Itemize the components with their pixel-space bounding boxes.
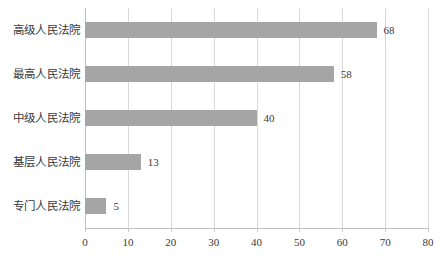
bar[interactable] [85, 154, 141, 170]
category-label: 专门人民法院 [7, 200, 85, 212]
category-axis: 高级人民法院最高人民法院中级人民法院基层人民法院专门人民法院 [0, 0, 85, 228]
x-tick-label: 50 [294, 236, 305, 249]
bar[interactable] [85, 110, 257, 126]
x-tick-mark [257, 228, 258, 232]
x-tick-mark [385, 228, 386, 232]
x-tick-mark [171, 228, 172, 232]
x-tick-label: 0 [82, 236, 88, 249]
bar-value-label: 40 [264, 110, 275, 126]
gridline-60 [342, 8, 343, 228]
x-tick-mark [85, 228, 86, 232]
category-label: 中级人民法院 [7, 112, 85, 124]
gridline-40 [257, 8, 258, 228]
category-label: 高级人民法院 [7, 24, 85, 36]
bar[interactable] [85, 22, 377, 38]
bar-value-label: 13 [148, 154, 159, 170]
bar[interactable] [85, 198, 106, 214]
bar-value-label: 68 [384, 22, 395, 38]
bar[interactable] [85, 66, 334, 82]
bar-chart: 高级人民法院最高人民法院中级人民法院基层人民法院专门人民法院 685840135… [0, 0, 447, 267]
x-tick-mark [128, 228, 129, 232]
x-tick-label: 80 [423, 236, 434, 249]
gridline-50 [299, 8, 300, 228]
x-tick-mark [342, 228, 343, 232]
x-tick-label: 70 [380, 236, 391, 249]
x-tick-mark [214, 228, 215, 232]
x-tick-mark [428, 228, 429, 232]
gridline-80 [428, 8, 429, 228]
category-label: 基层人民法院 [7, 156, 85, 168]
x-tick-label: 10 [122, 236, 133, 249]
x-tick-label: 30 [208, 236, 219, 249]
x-tick-mark [299, 228, 300, 232]
x-tick-label: 20 [165, 236, 176, 249]
category-label: 最高人民法院 [7, 68, 85, 80]
bar-value-label: 5 [113, 198, 119, 214]
bar-value-label: 58 [341, 66, 352, 82]
gridline-70 [385, 8, 386, 228]
x-tick-label: 40 [251, 236, 262, 249]
plot-area: 685840135 [85, 8, 428, 228]
x-tick-label: 60 [337, 236, 348, 249]
